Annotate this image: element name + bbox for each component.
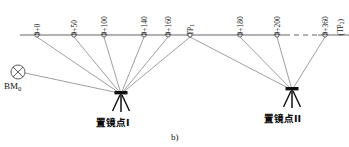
station-label-sta-tp1: TP1 — [186, 24, 194, 36]
benchmark-symbol-group — [11, 65, 25, 79]
sight-line-sta-0-160 — [121, 37, 168, 94]
station-label-text: 0+100 — [99, 16, 108, 35]
station-label-subscript: 1 — [188, 24, 194, 27]
tripod-right-leg — [122, 95, 130, 111]
station-label-text: 0+360 — [320, 16, 329, 35]
station-label-sta-0-160: 0+160 — [164, 16, 172, 35]
station-label-sta-tp2: (TP2) — [336, 19, 344, 36]
instrument-symbols-group — [113, 87, 301, 112]
tripod-left-leg — [284, 91, 292, 107]
station-label-sta-0-140: 0+140 — [140, 16, 148, 35]
instrument-symbol-2[interactable] — [284, 87, 301, 108]
station-label-sta-0-000: 0+0 — [33, 24, 41, 36]
instrument-1-label: 置镜点I — [96, 118, 130, 128]
station-label-text: 0+200 — [272, 16, 281, 35]
diagram-canvas — [0, 0, 349, 147]
station-label-sta-0-200: 0+200 — [273, 16, 281, 35]
station-label-text: TP — [185, 27, 194, 36]
station-label-text: 0+140 — [139, 16, 148, 35]
sight-line-sta-tp1 — [190, 37, 292, 90]
sight-lines-group — [25, 37, 325, 94]
station-label-text: 0+50 — [69, 20, 78, 35]
sight-line-sta-0-050 — [74, 37, 121, 94]
sight-line-sta-0-100 — [104, 37, 121, 94]
station-label-sta-0-180: 0+180 — [236, 16, 244, 35]
leveling-route-diagram: 0+00+500+1000+1400+160TP10+1800+2000+360… — [0, 0, 349, 147]
sight-line-sta-0-360 — [292, 37, 325, 90]
tripod-left-leg — [113, 95, 121, 111]
tripod-right-leg — [293, 91, 301, 107]
benchmark-label-text: BM — [4, 81, 18, 91]
sight-line-sta-0-140 — [121, 37, 144, 94]
benchmark-label-subscript: 0 — [18, 85, 21, 92]
sight-line-sta-tp1 — [121, 37, 190, 94]
station-label-subscript: 2 — [338, 22, 344, 25]
station-label-text: 0+0 — [32, 24, 41, 36]
station-label-sta-0-360: 0+360 — [321, 16, 329, 35]
station-label-text: (TP — [335, 24, 344, 35]
instrument-2-label: 置镜点II — [264, 114, 301, 124]
instrument-symbol-1[interactable] — [113, 91, 130, 112]
benchmark-label: BM0 — [4, 82, 21, 91]
figure-caption: b) — [171, 133, 179, 142]
station-label-text: 0+180 — [235, 16, 244, 35]
station-label-sta-0-100: 0+100 — [100, 16, 108, 35]
station-label-sta-0-050: 0+50 — [70, 20, 78, 35]
station-label-text: 0+160 — [163, 16, 172, 35]
sight-line-sta-0-000 — [37, 37, 121, 94]
